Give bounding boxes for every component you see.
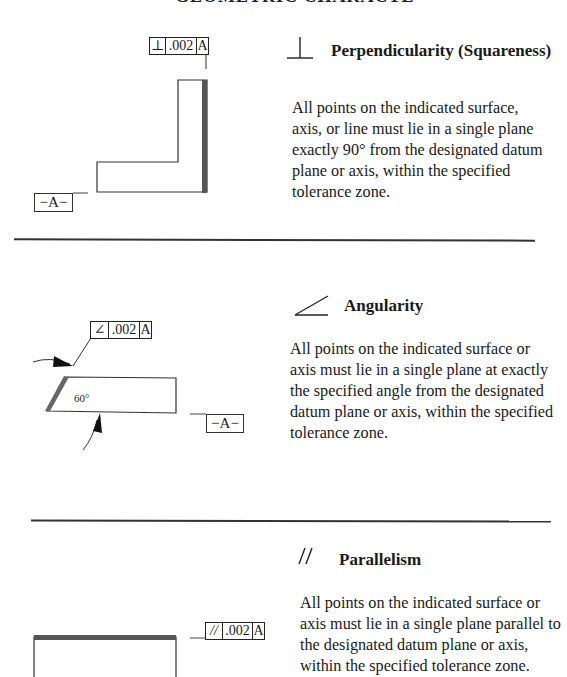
section-heading: Parallelism [339,550,421,570]
section-description: All points on the indicated surface or a… [300,593,562,677]
